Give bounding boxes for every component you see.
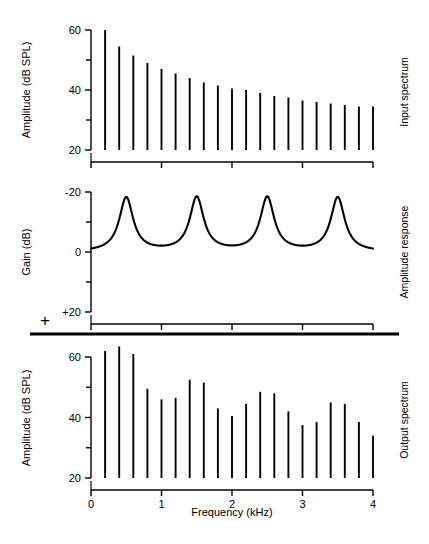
output-y-tick-label: 40: [69, 412, 81, 424]
output-y-tick-label: 20: [69, 472, 81, 484]
x-tick-label: 0: [88, 498, 94, 510]
plus-operator: +: [40, 311, 50, 330]
input-y-tick-label: 40: [69, 84, 81, 96]
amplitude-response-curve: [91, 196, 373, 248]
output-y-tick-label: 60: [69, 351, 81, 363]
response-y-tick-label: -20: [65, 186, 81, 198]
input-y-tick-label: 60: [69, 24, 81, 36]
output-y-axis-title: Amplitude (dB SPL): [20, 370, 32, 467]
x-axis-title: Frequency (kHz): [191, 506, 272, 518]
output-side-label: Output spectrum: [398, 381, 410, 459]
figure-canvas: 204060+200-2020406001234Amplitude (dB SP…: [0, 0, 429, 544]
x-tick-label: 3: [299, 498, 305, 510]
input-side-label: Input spectrum: [398, 57, 410, 127]
x-tick-label: 1: [158, 498, 164, 510]
response-y-tick-label: +20: [62, 306, 81, 318]
input-y-axis-title: Amplitude (dB SPL): [20, 42, 32, 139]
response-y-axis-title: Gain (dB): [20, 228, 32, 275]
response-y-tick-label: 0: [75, 246, 81, 258]
x-tick-label: 4: [370, 498, 376, 510]
figure-acoustic-filtering: 204060+200-2020406001234Amplitude (dB SP…: [0, 0, 429, 544]
input-y-tick-label: 20: [69, 144, 81, 156]
response-side-label: Amplitude response: [398, 205, 410, 298]
